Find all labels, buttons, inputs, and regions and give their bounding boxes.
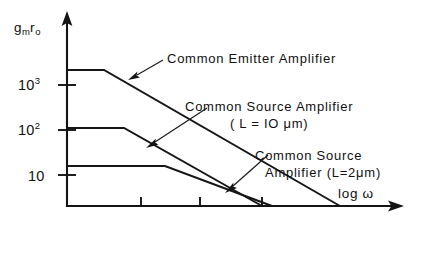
curve-common-emitter-amplifier: [67, 70, 340, 206]
y-tick-label-1e2: 102: [18, 120, 40, 139]
annotation-common-emitter-line1: Common Emitter Amplifier: [167, 51, 336, 66]
y-axis-title-o: o: [35, 26, 40, 37]
x-axis-group: [67, 200, 404, 211]
annotation-common-source-2um-line1: Common Source: [255, 148, 381, 163]
y-tick-label-1e2-mantissa: 10: [18, 122, 35, 138]
annotation-common-source-10um: Common Source Amplifier ( L = IO μm): [185, 99, 353, 132]
figure-canvas: [0, 0, 432, 272]
y-tick-label-1e1-mantissa: 10: [28, 168, 45, 184]
y-tick-label-1e2-exponent: 2: [35, 120, 40, 131]
y-tick-label-1e3-exponent: 3: [35, 75, 40, 86]
y-axis-group: [62, 11, 73, 206]
y-tick-label-1e1: 10: [28, 166, 45, 185]
x-axis-title: log ω: [338, 186, 374, 202]
y-tick-label-1e3: 103: [18, 75, 40, 94]
annotation-common-source-2um: Common Source Amplifier (L=2μm): [255, 148, 381, 181]
x-tick-marks: [141, 197, 262, 206]
leader-arrowhead-common-emitter: [128, 72, 140, 81]
curve-common-source-amplifier-2um: [67, 166, 272, 206]
y-tick-label-1e3-mantissa: 10: [18, 77, 35, 93]
annotation-common-source-2um-line2: Amplifier (L=2μm): [265, 165, 381, 180]
leader-common-emitter: [128, 60, 163, 80]
annotation-common-source-10um-line1: Common Source Amplifier: [185, 99, 353, 114]
figure-root: gmro 103 102 10 Common Emitter Amplifier…: [0, 0, 432, 272]
y-axis-title: gmro: [14, 20, 40, 36]
annotation-common-source-10um-line2: ( L = IO μm): [185, 116, 353, 131]
y-axis-title-g: g: [14, 20, 22, 35]
leader-line-common-emitter: [137, 60, 163, 75]
annotation-common-emitter-amplifier: Common Emitter Amplifier: [167, 51, 336, 66]
y-axis-title-m: m: [22, 26, 30, 37]
